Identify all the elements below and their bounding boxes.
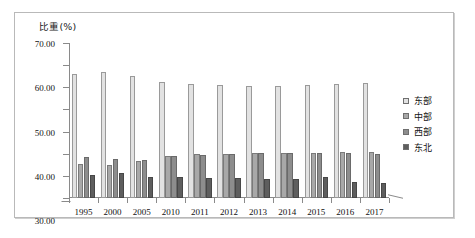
bar [223, 154, 228, 199]
bar-group: 2016 [331, 43, 360, 198]
bar [217, 85, 222, 198]
x-axis-tick-label: 2012 [220, 207, 238, 217]
bar [346, 153, 351, 198]
x-axis-tick-label: 2005 [133, 207, 151, 217]
legend-swatch-icon [403, 129, 409, 135]
bar-group: 2013 [244, 43, 273, 198]
x-axis-tick-label: 2017 [365, 207, 383, 217]
x-axis-tick-label: 2000 [104, 207, 122, 217]
legend-item-label: 中部 [414, 110, 432, 123]
bar [78, 164, 83, 198]
bar [113, 159, 118, 198]
bar [264, 179, 269, 198]
bar-group: 2000 [98, 43, 127, 198]
bar [148, 177, 153, 198]
bar [101, 72, 106, 198]
legend-item: 东北 [403, 140, 432, 156]
bar [293, 179, 298, 198]
bar [119, 173, 124, 198]
x-axis-tick [69, 198, 70, 203]
bar [188, 84, 193, 198]
y-axis-title: 比重(%) [39, 19, 76, 33]
x-axis-tick [185, 198, 186, 203]
x-axis-tick [273, 198, 274, 203]
chart-legend: 东部中部西部东北 [403, 93, 432, 155]
bar-group: 2011 [185, 43, 214, 198]
x-axis-tick-label: 2016 [336, 207, 354, 217]
plot-area: 0.0010.0020.0030.0040.0050.0060.0070.00 … [69, 43, 389, 198]
x-axis-tick [98, 198, 99, 203]
bar [352, 182, 357, 198]
bar [369, 152, 374, 198]
bar [363, 83, 368, 198]
bar-group: 2010 [156, 43, 185, 198]
legend-item: 西部 [403, 124, 432, 140]
bar [281, 153, 286, 198]
bar-group: 2014 [273, 43, 302, 198]
bar [258, 153, 263, 198]
bar [317, 153, 322, 198]
bar [287, 153, 292, 198]
x-axis-tick [156, 198, 157, 203]
x-axis-tick-label: 2014 [278, 207, 296, 217]
bar [130, 76, 135, 198]
x-axis-tick [214, 198, 215, 203]
bar [381, 183, 386, 198]
legend-item-label: 东北 [414, 141, 432, 154]
bar [194, 154, 199, 198]
x-axis-tail [388, 194, 403, 207]
bar-group: 2005 [127, 43, 156, 198]
bar [305, 85, 310, 198]
x-axis-tick [302, 198, 303, 203]
bar [177, 177, 182, 198]
y-axis-tick-label: 60.00 [35, 83, 55, 93]
bar [72, 74, 77, 198]
legend-swatch-icon [403, 144, 409, 150]
legend-item-label: 东部 [414, 94, 432, 107]
legend-item: 东部 [403, 93, 432, 109]
x-axis-tick [360, 198, 361, 203]
bar [90, 175, 95, 198]
bar [229, 154, 234, 198]
x-axis-tick [331, 198, 332, 203]
bar [200, 155, 205, 198]
bar [311, 153, 316, 198]
x-axis-tick [244, 198, 245, 203]
x-axis-tick-label: 2015 [307, 207, 325, 217]
bar [171, 156, 176, 198]
bar [165, 156, 170, 199]
bar [275, 86, 280, 198]
bar [235, 178, 240, 198]
bar-group: 2012 [214, 43, 243, 198]
bar [323, 177, 328, 198]
legend-swatch-icon [403, 98, 409, 104]
x-axis-tick-label: 2013 [249, 207, 267, 217]
legend-item-label: 西部 [414, 125, 432, 138]
bar-group: 1995 [69, 43, 98, 198]
bar-group: 2015 [302, 43, 331, 198]
bar [375, 154, 380, 199]
bar [84, 157, 89, 198]
legend-item: 中部 [403, 109, 432, 125]
x-axis-tick-label: 2011 [191, 207, 209, 217]
y-axis-tick-label: 30.00 [35, 216, 55, 226]
bar [340, 152, 345, 198]
y-axis-tick-label: 70.00 [35, 39, 55, 49]
x-axis-tick [389, 198, 390, 203]
bar [334, 84, 339, 198]
x-axis-tick-label: 1995 [75, 207, 93, 217]
y-axis-tick-label: 50.00 [35, 128, 55, 138]
bar [246, 86, 251, 198]
bar [107, 165, 112, 198]
bar [136, 161, 141, 198]
bar [206, 178, 211, 198]
bar-group: 2017 [360, 43, 389, 198]
bar [159, 82, 164, 198]
chart-figure: 比重(%) 0.0010.0020.0030.0040.0050.0060.00… [14, 12, 454, 218]
x-axis-tick-label: 2010 [162, 207, 180, 217]
y-axis-tick-label: 40.00 [35, 172, 55, 182]
legend-swatch-icon [403, 113, 409, 119]
bar [142, 160, 147, 198]
bar [252, 153, 257, 198]
x-axis-tick [127, 198, 128, 203]
